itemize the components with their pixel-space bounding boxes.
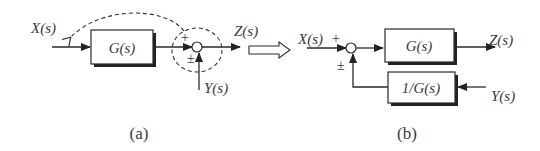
panel-a: X(s) G(s) + ± Z(s) Y(s) (a) [30,13,258,143]
panel-b-feedback-block-label: 1/G(s) [402,80,440,97]
panel-a-disturbance-label: Y(s) [204,80,228,97]
panel-b-caption: (b) [397,124,417,143]
block-diagram: X(s) G(s) + ± Z(s) Y(s) (a) X(s) + [0,0,540,151]
panel-b-feedback-arrow [353,54,388,87]
panel-a-sum-sign-bottom: ± [187,51,195,66]
panel-a-sum-sign-top: + [181,30,189,45]
panel-a-output-label: Z(s) [234,23,258,40]
panel-b: X(s) + G(s) Z(s) 1/G(s) Y(s) ± (b) [297,29,515,143]
panel-b-input-label: X(s) [297,31,323,48]
panel-b-summing-junction [346,43,356,53]
panel-b-input-sign: + [332,31,340,46]
panel-b-output-label: Z(s) [489,32,513,49]
panel-b-g-block-label: G(s) [406,38,433,55]
panel-b-sum-sign-bottom: ± [337,58,345,73]
panel-a-input-label: X(s) [30,20,56,37]
panel-a-g-block-label: G(s) [109,40,136,57]
hollow-right-arrow-icon [249,42,290,58]
panel-b-disturbance-label: Y(s) [491,88,515,105]
panel-a-caption: (a) [130,124,149,143]
